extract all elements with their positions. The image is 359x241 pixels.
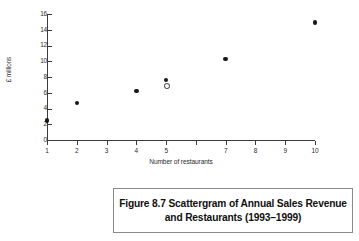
x-tick-mark (255, 141, 256, 145)
x-tick-label: 2 (68, 147, 86, 154)
x-tick-label: 5 (157, 147, 175, 154)
x-tick-label: 4 (127, 147, 145, 154)
x-tick-label: 7 (217, 147, 235, 154)
y-tick-mark (48, 61, 52, 62)
y-tick-mark (48, 140, 52, 141)
data-point (134, 89, 138, 93)
x-axis-title: Number of restaurants (47, 158, 315, 166)
x-tick-mark (47, 141, 48, 145)
x-axis-line (47, 140, 315, 141)
data-point (45, 118, 49, 122)
y-tick-label: 12 (35, 42, 47, 49)
figure-scattergram: 0246810121416 1234578910 £ millions Numb… (0, 0, 359, 241)
y-tick-label: 14 (35, 27, 47, 34)
x-tick-label: 3 (98, 147, 116, 154)
y-tick-label: 4 (35, 105, 47, 112)
x-tick-label: 8 (246, 147, 264, 154)
y-tick-mark (48, 124, 52, 125)
y-tick-label: 6 (35, 90, 47, 97)
x-tick-label: 1 (38, 147, 56, 154)
figure-caption-box: Figure 8.7 Scattergram of Annual Sales R… (113, 188, 353, 233)
x-tick-label: 10 (306, 147, 324, 154)
y-axis-title: £ millions (5, 41, 12, 99)
y-tick-mark (48, 109, 52, 110)
y-tick-label: 16 (35, 11, 47, 18)
data-point-open (164, 83, 170, 89)
caption-line-1: Figure 8.7 Scattergram of Annual Sales R… (119, 197, 347, 211)
y-tick-label: 0 (35, 137, 47, 144)
x-tick-mark (166, 141, 167, 145)
x-tick-mark (196, 141, 197, 145)
data-point (75, 101, 79, 105)
x-tick-mark (136, 141, 137, 145)
data-point (164, 78, 168, 82)
x-tick-mark (77, 141, 78, 145)
y-tick-label: 8 (35, 74, 47, 81)
x-tick-mark (315, 141, 316, 145)
y-tick-mark (48, 46, 52, 47)
x-tick-mark (107, 141, 108, 145)
y-tick-mark (48, 93, 52, 94)
y-tick-mark (48, 77, 52, 78)
x-tick-label: 9 (276, 147, 294, 154)
x-tick-mark (226, 141, 227, 145)
scatter-plot: 0246810121416 1234578910 £ millions Numb… (0, 0, 359, 180)
caption-line-2: and Restaurants (1993–1999) (165, 211, 301, 225)
x-tick-mark (285, 141, 286, 145)
y-tick-label: 10 (35, 58, 47, 65)
y-tick-mark (48, 30, 52, 31)
data-point (223, 57, 227, 61)
data-point (313, 20, 317, 24)
y-tick-mark (48, 14, 52, 15)
